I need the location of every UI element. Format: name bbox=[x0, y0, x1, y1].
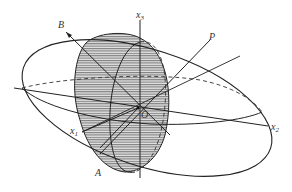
label-b: B bbox=[58, 19, 64, 30]
label-o: O bbox=[141, 109, 148, 120]
label-p: P bbox=[208, 31, 215, 42]
label-a: A bbox=[94, 167, 102, 178]
ellipsoid-diagram: B x3 P O x1 A x2 bbox=[0, 0, 292, 192]
label-x3: x3 bbox=[135, 9, 144, 22]
center-point-o bbox=[136, 106, 139, 109]
